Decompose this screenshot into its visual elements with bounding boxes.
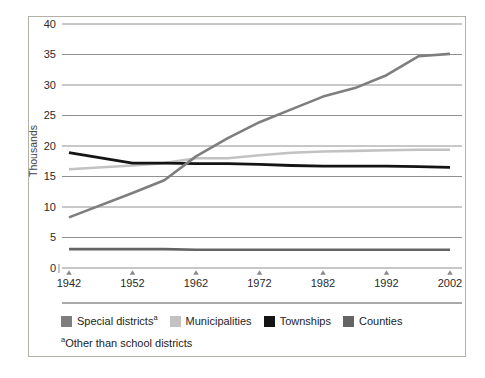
legend-label: Counties — [359, 315, 402, 327]
y-tick-label: 15 — [44, 170, 56, 182]
x-tick-label: 1992 — [374, 277, 398, 289]
legend-swatch — [343, 316, 354, 327]
legend-item: Townships — [264, 315, 331, 327]
legend-swatch — [170, 316, 181, 327]
legend-item: Counties — [343, 315, 402, 327]
x-tick-marker — [384, 270, 390, 275]
legend-swatch — [61, 316, 72, 327]
y-tick-label: 40 — [44, 18, 56, 30]
y-axis-title: Thousands — [27, 125, 39, 177]
x-tick-marker — [130, 270, 136, 275]
footnote-text: Other than school districts — [65, 337, 192, 349]
y-tick-label: 30 — [44, 79, 56, 91]
y-tick-label: 5 — [50, 231, 56, 243]
legend: Special districtsaMunicipalitiesTownship… — [61, 313, 402, 329]
x-tick-marker — [193, 270, 199, 275]
x-tick-label: 2002 — [438, 277, 462, 289]
chart-screenshot: 0510152025303540194219521962197219821992… — [0, 0, 485, 378]
y-tick-label: 10 — [44, 201, 56, 213]
x-tick-marker — [66, 270, 72, 275]
x-tick-label: 1952 — [120, 277, 144, 289]
footnote: aOther than school districts — [61, 337, 192, 349]
x-tick-marker — [257, 270, 263, 275]
legend-label: Townships — [280, 315, 331, 327]
series-line-special-districts — [69, 54, 450, 218]
y-tick-label: 0 — [50, 262, 56, 274]
series-line-counties — [69, 249, 450, 250]
legend-label: Special districtsa — [77, 315, 158, 327]
x-tick-label: 1962 — [184, 277, 208, 289]
legend-label: Municipalities — [186, 315, 252, 327]
x-tick-label: 1972 — [247, 277, 271, 289]
y-tick-label: 25 — [44, 109, 56, 121]
y-tick-label: 35 — [44, 48, 56, 60]
x-tick-marker — [447, 270, 453, 275]
legend-swatch — [264, 316, 275, 327]
x-tick-label: 1982 — [311, 277, 335, 289]
legend-item: Municipalities — [170, 315, 252, 327]
y-tick-label: 20 — [44, 140, 56, 152]
x-tick-label: 1942 — [57, 277, 81, 289]
x-tick-marker — [320, 270, 326, 275]
legend-item: Special districtsa — [61, 315, 158, 327]
